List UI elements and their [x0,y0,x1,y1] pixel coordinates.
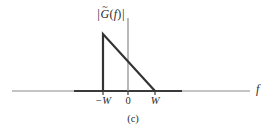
spectrum-magnitude-label: |~G(f)| [0,7,222,20]
figure-caption: (c) [0,114,266,125]
x-axis-label: f [256,83,259,95]
g-tilde-symbol: ~G [101,8,110,20]
spectrum-curve [103,34,155,91]
tick-label-positive-w: W [141,96,169,107]
figure-container: |~G(f)| −W 0 W f (c) [0,0,276,138]
abs-bar-right: | [121,6,125,21]
tilde-accent: ~ [102,2,108,12]
tick-label-zero: 0 [114,96,142,107]
